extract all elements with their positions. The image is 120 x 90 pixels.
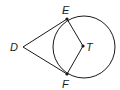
geometry-diagram: D E F T — [0, 0, 120, 90]
label-t: T — [86, 41, 94, 53]
radius-te — [67, 19, 83, 46]
radius-tf — [67, 46, 83, 74]
tangent-segment-df — [23, 47, 67, 74]
tangent-segment-de — [23, 19, 67, 47]
label-f: F — [62, 78, 70, 90]
label-e: E — [62, 4, 70, 16]
point-e — [65, 17, 68, 20]
label-d: D — [10, 41, 18, 53]
point-t — [81, 44, 84, 47]
point-f — [65, 72, 68, 75]
